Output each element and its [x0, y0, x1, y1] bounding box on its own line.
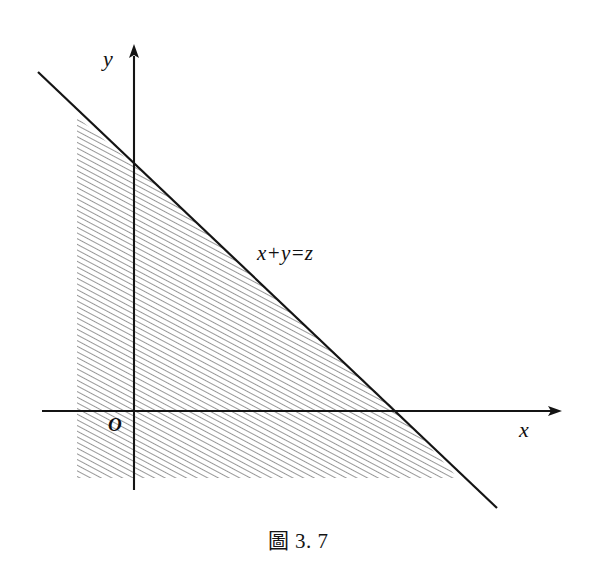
y-axis-label: y: [103, 48, 113, 70]
figure-caption: 圖 3. 7: [0, 524, 596, 554]
figure-container: y x O x+y=z 圖 3. 7: [0, 0, 596, 572]
shaded-region-hatching: [70, 110, 470, 485]
x-axis-label: x: [519, 419, 529, 441]
origin-label: O: [108, 415, 122, 434]
figure-canvas: [0, 0, 596, 572]
line-equation-label: x+y=z: [257, 243, 313, 264]
